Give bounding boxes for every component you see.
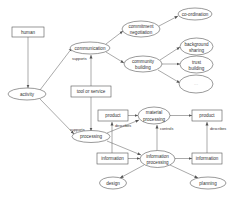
node-label: information (101, 156, 124, 161)
edge-infoproc-design (120, 165, 144, 178)
node-label: communication (75, 46, 106, 51)
edge-activity-communication (40, 48, 72, 90)
node-planning: planning (190, 177, 226, 189)
node-label-line1: commitment (128, 24, 154, 29)
node-label-line1: material (146, 110, 162, 115)
edge-label-supports: supports (72, 57, 87, 61)
node-label-line2: negotiation (130, 30, 153, 35)
node-information-left: information (97, 153, 128, 164)
node-label-line2: processing (143, 117, 166, 122)
node-label-line1: information (146, 154, 169, 159)
node-label-line2: sharing (189, 48, 205, 53)
edge-communication-community (106, 52, 124, 63)
concept-diagram: supports supports describes controls des… (0, 0, 238, 197)
edge-community-more (158, 70, 180, 83)
edge-label-describes: describes (210, 127, 226, 131)
node-label: design (106, 181, 120, 186)
node-information-processing: information processing (140, 151, 175, 168)
node-label: human (21, 30, 35, 35)
node-commitment-negotiation: commitment negotiation (122, 21, 160, 37)
node-activity: activity (8, 88, 46, 100)
edge-commitment-coordination (159, 16, 178, 26)
node-label-line2: processing (146, 160, 169, 165)
node-label: product (199, 113, 215, 118)
node-material-processing: material processing (138, 107, 170, 124)
node-design: design (100, 177, 127, 189)
node-communication: communication (70, 42, 110, 54)
node-product-left: product (98, 110, 128, 121)
node-label: tool or service (77, 89, 106, 94)
edge-label-controls: controls (160, 127, 173, 131)
node-community-building: community building (124, 56, 162, 72)
node-label-line2: building (189, 66, 205, 71)
node-label: processing (80, 134, 103, 139)
edge-community-background (160, 47, 180, 60)
node-label: product (105, 113, 121, 118)
node-more: ... (179, 75, 213, 93)
node-label-line2: building (135, 65, 151, 70)
node-label: information (196, 156, 219, 161)
node-label: activity (20, 92, 35, 97)
edge-activity-processing (40, 99, 74, 134)
node-product-right: product (192, 110, 222, 121)
node-label: planning (199, 181, 217, 186)
edge-communication-commitment (106, 31, 123, 44)
node-co-ordination: co-ordination (178, 8, 212, 20)
node-human: human (12, 27, 44, 37)
node-background-sharing: background sharing (180, 38, 213, 55)
node-label-line1: trust (192, 60, 202, 65)
node-label: ... (194, 81, 198, 86)
node-label-line1: community (132, 59, 155, 64)
node-label: co-ordination (182, 12, 209, 17)
node-label-line1: background (184, 42, 208, 47)
edge-label-describes: describes (115, 124, 131, 128)
node-information-right: information (192, 153, 222, 164)
node-processing: processing (72, 131, 110, 143)
node-tool-or-service: tool or service (71, 86, 111, 97)
edge-infoproc-planning (170, 165, 198, 178)
node-trust-building: trust building (180, 56, 213, 73)
